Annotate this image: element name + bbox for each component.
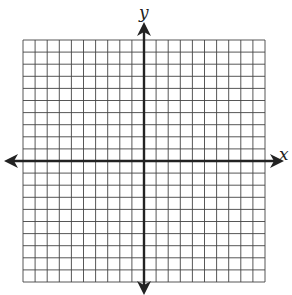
coordinate-plane — [0, 0, 292, 295]
y-axis-label: y — [139, 4, 149, 21]
x-axis-label: x — [279, 146, 289, 163]
axes — [4, 22, 284, 295]
